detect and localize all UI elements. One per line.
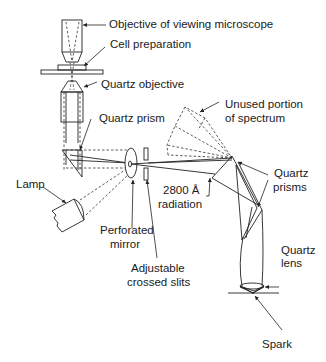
crossed-slits [144,148,148,180]
label-quartz-prism: Quartz prism [99,112,165,124]
label-spark: Spark [262,338,292,350]
label-quartz-lens-line1: Quartz [281,244,316,256]
quartz-lens [240,283,264,293]
viewing-objective [62,20,82,62]
quartz-prism [62,150,82,177]
optical-diagram: Objective of viewing microscope Cell pre… [0,0,326,362]
unused-spectrum-fan [167,107,232,158]
label-perforated-line1: Perforated [100,224,154,236]
label-lamp: Lamp [16,178,45,190]
spark [228,292,279,294]
label-radiation-line2: radiation [158,198,202,210]
label-quartz-prisms-line1: Quartz [274,167,309,179]
label-unused-line1: Unused portion [225,98,303,110]
label-objective-viewing: Objective of viewing microscope [109,18,273,30]
lamp [52,199,84,232]
quartz-prisms [212,156,262,240]
label-slits-line2: crossed slits [127,276,191,288]
quartz-objective [61,81,83,122]
perforated-mirror [125,148,137,178]
label-quartz-objective: Quartz objective [101,78,184,90]
label-slits-line1: Adjustable [131,262,185,274]
microscope-stage [41,62,103,90]
label-unused-line2: of spectrum [225,112,285,124]
label-cell-preparation: Cell preparation [110,38,191,50]
label-quartz-prisms-line2: prisms [273,181,307,193]
label-radiation-line1: 2800 Å [163,184,200,196]
label-perforated-line2: mirror [110,238,140,250]
label-quartz-lens-line2: lens [281,257,302,269]
